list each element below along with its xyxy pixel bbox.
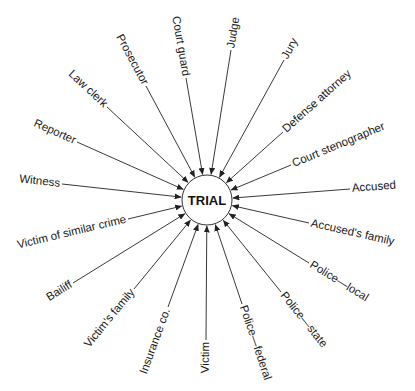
node-label: Police—local bbox=[308, 258, 371, 303]
spoke-arrow bbox=[77, 142, 183, 189]
spoke-arrow bbox=[107, 107, 188, 182]
spoke-arrow bbox=[186, 78, 203, 174]
spoke-arrow bbox=[226, 132, 283, 183]
spoke-arrow bbox=[223, 220, 281, 292]
node-label: Accused's family bbox=[310, 217, 396, 248]
spoke-arrow bbox=[128, 206, 182, 219]
node-label: Prosecutor bbox=[114, 32, 151, 87]
spoke-arrow bbox=[134, 220, 191, 289]
node-label: Witness bbox=[19, 172, 61, 188]
node-label: Reporter bbox=[32, 117, 78, 146]
trial-hub-label: TRIAL bbox=[188, 193, 226, 208]
spoke-arrow bbox=[231, 165, 291, 190]
spoke-arrow bbox=[168, 224, 198, 307]
node-label: Law clerk bbox=[67, 67, 111, 109]
node-label: Jury bbox=[279, 36, 300, 61]
node-label: Defense attorney bbox=[280, 67, 353, 134]
node-label: Insurance co. bbox=[137, 306, 172, 375]
node-label: Police—federal bbox=[238, 304, 274, 382]
spoke-arrow bbox=[232, 206, 309, 223]
node-label: Victim of similar crime bbox=[16, 213, 127, 251]
spoke-arrow bbox=[215, 225, 242, 304]
spoke-arrow bbox=[206, 226, 207, 340]
node-label: Court stenographer bbox=[290, 120, 386, 169]
spoke-arrow bbox=[62, 184, 181, 197]
node-label: Court guard bbox=[170, 15, 192, 77]
trial-diagram: Court guardJudgeJuryDefense attorneyCour… bbox=[0, 0, 415, 391]
spoke-arrow bbox=[233, 189, 350, 198]
node-label: Victim bbox=[199, 342, 211, 373]
node-label: Accused bbox=[351, 179, 396, 194]
spoke-arrow bbox=[229, 214, 309, 263]
node-label: Victim's family bbox=[81, 286, 136, 350]
spoke-arrow bbox=[211, 50, 231, 174]
spoke-arrow bbox=[146, 86, 195, 177]
node-label: Bailiff bbox=[44, 278, 75, 303]
node-label: Judge bbox=[224, 16, 241, 49]
node-label: Police—state bbox=[278, 289, 330, 349]
